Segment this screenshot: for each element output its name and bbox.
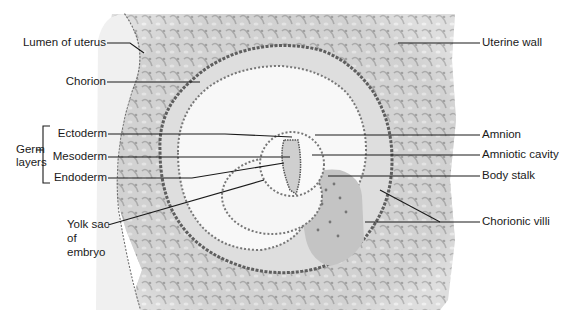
label-endoderm: Endoderm [6, 171, 107, 184]
label-ectoderm: Ectoderm [6, 127, 107, 140]
label-layers: layers [16, 156, 47, 169]
label-uterine-wall: Uterine wall [482, 36, 542, 49]
diagram-canvas: Lumen of uterus Chorion Ectoderm Mesoder… [0, 0, 566, 326]
label-germ: Germ [16, 143, 45, 156]
label-chorion: Chorion [6, 75, 106, 88]
label-chorionic-villi: Chorionic villi [482, 215, 550, 228]
label-yolk-sac-of: of [67, 232, 77, 245]
label-amnion: Amnion [482, 128, 521, 141]
label-body-stalk: Body stalk [482, 169, 535, 182]
label-yolk-sac-embryo: embryo [67, 246, 105, 259]
label-yolk-sac: Yolk sac [67, 218, 109, 231]
label-lumen-of-uterus: Lumen of uterus [6, 36, 106, 49]
label-amniotic-cavity: Amniotic cavity [482, 148, 559, 161]
